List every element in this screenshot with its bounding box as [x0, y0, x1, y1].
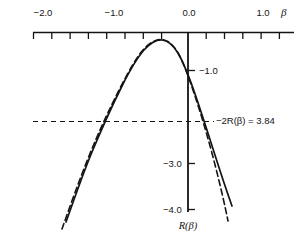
figure-likelihood-plot: −2.0 −1.0 0.0 1.0 β −1.0 −3.0 −4.0 −2R(β… [0, 0, 296, 237]
y-axis-label: R(β) [179, 221, 198, 232]
x-axis-ticks [34, 33, 280, 40]
x-tick-label-neg1: −1.0 [105, 8, 124, 18]
x-tick-label-zero: 0.0 [182, 8, 195, 18]
threshold-annotation-label: −2R(β) = 3.84 [216, 116, 275, 126]
y-tick-label-neg1: −1.0 [199, 66, 218, 76]
x-tick-label-neg2: −2.0 [34, 8, 53, 18]
y-tick-label-neg3: −3.0 [163, 159, 182, 169]
y-tick-label-neg4: −4.0 [163, 205, 182, 215]
x-axis-label: β [281, 7, 286, 18]
x-tick-label-one: 1.0 [256, 8, 269, 18]
